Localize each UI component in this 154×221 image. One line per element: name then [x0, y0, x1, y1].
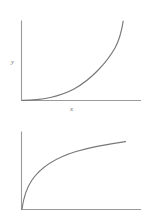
bottom-chart-axes — [22, 132, 142, 210]
top-chart-axes — [22, 21, 142, 101]
top-chart-curve — [22, 21, 123, 100]
bottom-chart-svg — [0, 118, 154, 221]
top-chart-panel: y x — [0, 0, 154, 118]
top-chart-y-axis-label: y — [11, 59, 14, 66]
top-chart-svg — [0, 0, 154, 118]
bottom-chart-curve — [22, 142, 126, 210]
bottom-chart-panel: y x — [0, 118, 154, 221]
top-chart-x-axis-label: x — [70, 106, 73, 113]
figure-root: y x y x — [0, 0, 154, 221]
